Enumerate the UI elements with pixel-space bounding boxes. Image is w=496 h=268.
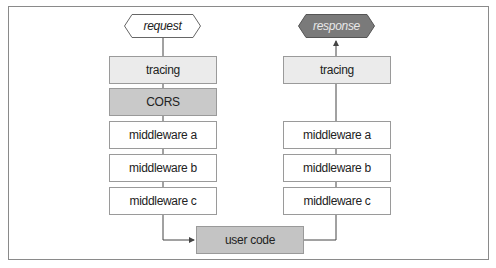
request-middleware-c-box: middleware c bbox=[109, 187, 217, 215]
response-node: response bbox=[298, 14, 375, 38]
request-tracing-box: tracing bbox=[109, 56, 217, 84]
user-code-box: user code bbox=[196, 226, 304, 254]
response-label: response bbox=[313, 19, 360, 33]
request-middleware-b-box: middleware b bbox=[109, 154, 217, 182]
request-middleware-a-box: middleware a bbox=[109, 121, 217, 149]
response-tracing-box: tracing bbox=[283, 56, 391, 84]
response-middleware-b-box: middleware b bbox=[283, 154, 391, 182]
request-label: request bbox=[144, 19, 182, 33]
request-cors-box: CORS bbox=[109, 88, 217, 116]
response-middleware-c-box: middleware c bbox=[283, 187, 391, 215]
response-middleware-a-box: middleware a bbox=[283, 121, 391, 149]
request-node: request bbox=[124, 14, 201, 38]
